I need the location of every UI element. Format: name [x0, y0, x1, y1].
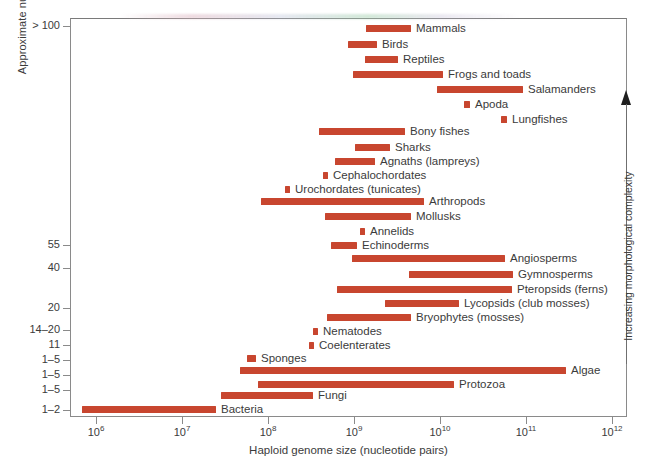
y-tick-mark: [63, 410, 70, 411]
bar-label: Lycopsids (club mosses): [464, 298, 589, 309]
chart-bar: [319, 128, 405, 135]
y-tick-mark: [63, 308, 70, 309]
chart-bar: [348, 41, 377, 48]
bar-label: Cephalochordates: [333, 170, 426, 181]
genome-size-cell-types-chart: Approximate number of cell types > 10055…: [0, 0, 649, 464]
y-tick-label: 20: [2, 301, 60, 313]
y-tick-label: 55: [2, 238, 60, 250]
y-tick-mark: [63, 375, 70, 376]
complexity-label-container: Increasing morphological complexity: [608, 160, 628, 360]
x-tick-mark: [526, 417, 527, 424]
bar-label: Bryophytes (mosses): [416, 312, 524, 323]
chart-bar: [313, 328, 318, 335]
bar-label: Sponges: [261, 353, 306, 364]
chart-bar: [360, 228, 365, 235]
chart-bar: [325, 213, 411, 220]
bar-label: Mollusks: [416, 211, 461, 222]
bar-label: Pteropsids (ferns): [517, 284, 608, 295]
up-arrow-icon: [621, 90, 631, 105]
chart-bar: [331, 242, 357, 249]
bar-label: Birds: [382, 39, 408, 50]
bar-label: Mammals: [416, 23, 466, 34]
bar-label: Nematodes: [323, 326, 382, 337]
bar-label: Salamanders: [528, 84, 596, 95]
x-tick-label: 1012: [601, 426, 622, 438]
bar-label: Echinoderms: [362, 240, 429, 251]
chart-bar: [365, 56, 398, 63]
y-tick-mark: [63, 26, 70, 27]
y-tick-label: 1–5: [2, 383, 60, 395]
chart-bar: [501, 116, 507, 123]
chart-bar: [221, 392, 313, 399]
chart-bar: [285, 186, 290, 193]
y-tick-mark: [63, 390, 70, 391]
y-tick-label: > 100: [2, 19, 60, 31]
y-tick-label: 1–2: [2, 403, 60, 415]
y-axis-title-container: Approximate number of cell types: [0, 105, 30, 325]
chart-bar: [82, 406, 216, 413]
chart-bar: [240, 367, 566, 374]
bar-label: Bacteria: [221, 404, 263, 415]
bar-label: Frogs and toads: [448, 69, 531, 80]
chart-bar: [353, 71, 443, 78]
x-tick-mark: [612, 417, 613, 424]
x-tick-mark: [96, 417, 97, 424]
bar-label: Apoda: [475, 99, 508, 110]
chart-bar: [323, 172, 328, 179]
chart-bar: [437, 86, 523, 93]
chart-bar: [309, 342, 314, 349]
bar-label: Bony fishes: [410, 126, 469, 137]
x-tick-mark: [268, 417, 269, 424]
chart-bar: [464, 101, 470, 108]
bar-label: Arthropods: [429, 196, 485, 207]
bar-label: Reptiles: [403, 54, 445, 65]
chart-bar: [335, 158, 375, 165]
chart-bar: [352, 255, 505, 262]
y-tick-label: 11: [2, 338, 60, 350]
bar-label: Gymnosperms: [518, 269, 593, 280]
chart-bar: [247, 355, 256, 362]
chart-bar: [409, 271, 513, 278]
chart-bar: [261, 198, 424, 205]
bar-label: Sharks: [395, 142, 431, 153]
chart-bar: [385, 300, 459, 307]
bar-label: Fungi: [318, 390, 347, 401]
y-tick-label: 14–20: [2, 323, 60, 335]
x-tick-label: 108: [260, 426, 277, 438]
x-tick-mark: [182, 417, 183, 424]
x-tick-label: 107: [174, 426, 191, 438]
x-tick-label: 109: [346, 426, 363, 438]
y-tick-label: 40: [2, 261, 60, 273]
bar-label: Angiosperms: [510, 253, 577, 264]
bar-label: Coelenterates: [319, 340, 391, 351]
bar-label: Protozoa: [459, 379, 505, 390]
y-tick-mark: [63, 345, 70, 346]
complexity-axis-label: Increasing morphological complexity: [622, 156, 634, 356]
chart-bar: [355, 144, 390, 151]
x-tick-mark: [354, 417, 355, 424]
x-axis-title: Haploid genome size (nucleotide pairs): [70, 444, 627, 456]
chart-bar: [258, 381, 454, 388]
y-tick-mark: [63, 360, 70, 361]
x-tick-label: 1011: [516, 426, 537, 438]
y-tick-mark: [63, 268, 70, 269]
x-tick-mark: [440, 417, 441, 424]
chart-bar: [327, 314, 411, 321]
bar-label: Lungfishes: [512, 114, 568, 125]
bar-label: Urochordates (tunicates): [295, 184, 421, 195]
y-tick-label: 1–5: [2, 368, 60, 380]
bar-label: Annelids: [370, 226, 414, 237]
y-tick-mark: [63, 245, 70, 246]
chart-bar: [366, 25, 411, 32]
x-tick-label: 1010: [429, 426, 450, 438]
x-tick-label: 106: [88, 426, 105, 438]
bar-label: Algae: [571, 365, 600, 376]
bar-label: Agnaths (lampreys): [380, 156, 480, 167]
y-tick-label: 1–5: [2, 353, 60, 365]
chart-bar: [337, 286, 512, 293]
y-tick-mark: [63, 330, 70, 331]
